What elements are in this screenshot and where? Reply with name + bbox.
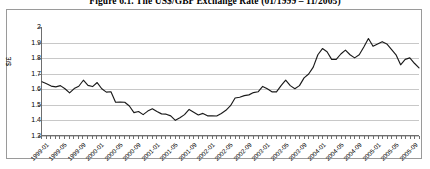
x-axis-tick-mark: [290, 136, 291, 139]
x-axis-tick-mark: [239, 136, 240, 139]
x-axis-tick-mark: [198, 136, 199, 139]
x-axis-tick-mark: [391, 136, 392, 139]
x-axis-tick-mark: [69, 136, 70, 139]
x-axis-tick-mark: [373, 136, 374, 139]
x-axis-tick-mark: [327, 136, 328, 139]
x-axis-tick-mark: [46, 136, 47, 139]
x-axis-tick-mark: [87, 136, 88, 139]
x-axis-tick-mark: [313, 136, 314, 139]
x-axis-tick-mark: [133, 136, 134, 139]
x-axis-tick-mark: [368, 136, 369, 139]
y-axis-ticks: 21.91.81.71.61.51.41.3: [7, 27, 41, 137]
x-axis-tick-mark: [364, 136, 365, 139]
x-axis-tick-mark: [225, 136, 226, 139]
x-axis-tick-mark: [387, 136, 388, 139]
x-axis-tick-mark: [308, 136, 309, 139]
x-axis-tick-mark: [295, 136, 296, 139]
x-axis-tick-mark: [248, 136, 249, 139]
plot-area: [41, 27, 419, 136]
x-axis-tick-mark: [359, 136, 360, 139]
x-axis-tick-mark: [230, 136, 231, 139]
x-axis-tick-mark: [129, 136, 130, 139]
x-axis-tick-mark: [285, 136, 286, 139]
x-axis-tick-mark: [142, 136, 143, 139]
x-axis-tick-mark: [235, 136, 236, 139]
x-axis-tick-mark: [299, 136, 300, 139]
x-axis-tick-mark: [50, 136, 51, 139]
x-axis-tick-mark: [419, 136, 420, 139]
x-axis-tick-mark: [96, 136, 97, 139]
x-axis-tick-mark: [207, 136, 208, 139]
x-axis-tick-mark: [64, 136, 65, 139]
x-axis-tick-mark: [202, 136, 203, 139]
x-axis-tick-mark: [189, 136, 190, 139]
x-axis-tick-mark: [253, 136, 254, 139]
x-axis-tick-mark: [244, 136, 245, 139]
x-axis-tick-mark: [78, 136, 79, 139]
x-axis-tick-mark: [101, 136, 102, 139]
x-axis-tick-mark: [341, 136, 342, 139]
x-axis-tick-mark: [152, 136, 153, 139]
chart-outer-frame: $/£ 21.91.81.71.61.51.41.3 1999-011999-0…: [6, 9, 422, 159]
x-axis-tick-mark: [138, 136, 139, 139]
x-axis-tick-mark: [410, 136, 411, 139]
x-axis-tick-mark: [193, 136, 194, 139]
x-axis-tick-mark: [281, 136, 282, 139]
x-axis-tick-mark: [271, 136, 272, 139]
figure-title: Figure 6.1. The US$/GBP Exchange Rate (0…: [0, 0, 430, 6]
x-axis-tick-mark: [212, 136, 213, 139]
x-axis-tick-mark: [106, 136, 107, 139]
x-axis-tick-mark: [92, 136, 93, 139]
x-axis-tick-mark: [82, 136, 83, 139]
x-axis-tick-mark: [401, 136, 402, 139]
x-axis-tick-mark: [170, 136, 171, 139]
x-axis-tick-mark: [262, 136, 263, 139]
x-axis-tick-mark: [396, 136, 397, 139]
x-axis-tick-mark: [276, 136, 277, 139]
x-axis-tick-mark: [336, 136, 337, 139]
x-axis-tick-mark: [221, 136, 222, 139]
x-axis-tick-mark: [258, 136, 259, 139]
x-axis-tick-mark: [318, 136, 319, 139]
x-axis-tick-mark: [304, 136, 305, 139]
x-axis-tick-mark: [322, 136, 323, 139]
x-axis-tick-mark: [115, 136, 116, 139]
x-axis-tick-mark: [165, 136, 166, 139]
x-axis-tick-mark: [378, 136, 379, 139]
x-axis-tick-mark: [147, 136, 148, 139]
x-axis-tick-mark: [382, 136, 383, 139]
x-axis-tick-mark: [73, 136, 74, 139]
x-axis-tick-mark: [331, 136, 332, 139]
x-axis-tick-mark: [267, 136, 268, 139]
x-axis-tick-mark: [156, 136, 157, 139]
x-axis-tick-mark: [350, 136, 351, 139]
exchange-rate-line-series: [42, 27, 419, 135]
figure-container: Figure 6.1. The US$/GBP Exchange Rate (0…: [0, 0, 430, 169]
x-axis-tick-mark: [55, 136, 56, 139]
x-axis-tick-mark: [41, 136, 42, 139]
x-axis-tick-mark: [119, 136, 120, 139]
x-axis-tick-mark: [345, 136, 346, 139]
x-axis-tick-mark: [110, 136, 111, 139]
x-axis-tick-mark: [179, 136, 180, 139]
x-axis-tick-mark: [59, 136, 60, 139]
x-axis-ticks: 1999-011999-051999-092000-012000-052000-…: [41, 136, 419, 169]
x-axis-tick-mark: [354, 136, 355, 139]
x-axis-tick-mark: [216, 136, 217, 139]
x-axis-tick-mark: [184, 136, 185, 139]
x-axis-tick-mark: [161, 136, 162, 139]
x-axis-tick-mark: [175, 136, 176, 139]
x-axis-tick-mark: [124, 136, 125, 139]
x-axis-tick-mark: [405, 136, 406, 139]
x-axis-tick-mark: [414, 136, 415, 139]
